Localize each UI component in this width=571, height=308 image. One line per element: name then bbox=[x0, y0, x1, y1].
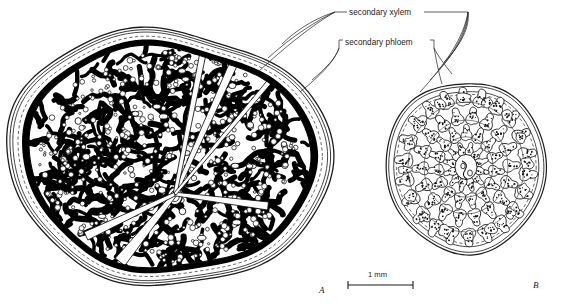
panel-b-cross-section bbox=[386, 84, 546, 255]
label-secondary-phloem: secondary phloem bbox=[345, 38, 413, 47]
scale-bar-label: 1 mm bbox=[368, 270, 387, 279]
figure-root: secondary xylem secondary phloem 1 mm A … bbox=[0, 0, 571, 308]
leader-lines bbox=[258, 12, 468, 92]
panel-a-cross-section bbox=[7, 24, 334, 292]
illustration-canvas: secondary xylem secondary phloem 1 mm A … bbox=[0, 0, 571, 308]
panel-label-a: A bbox=[318, 285, 325, 295]
label-secondary-xylem: secondary xylem bbox=[349, 8, 411, 17]
scale-bar bbox=[348, 281, 413, 289]
panel-label-b: B bbox=[533, 280, 539, 290]
